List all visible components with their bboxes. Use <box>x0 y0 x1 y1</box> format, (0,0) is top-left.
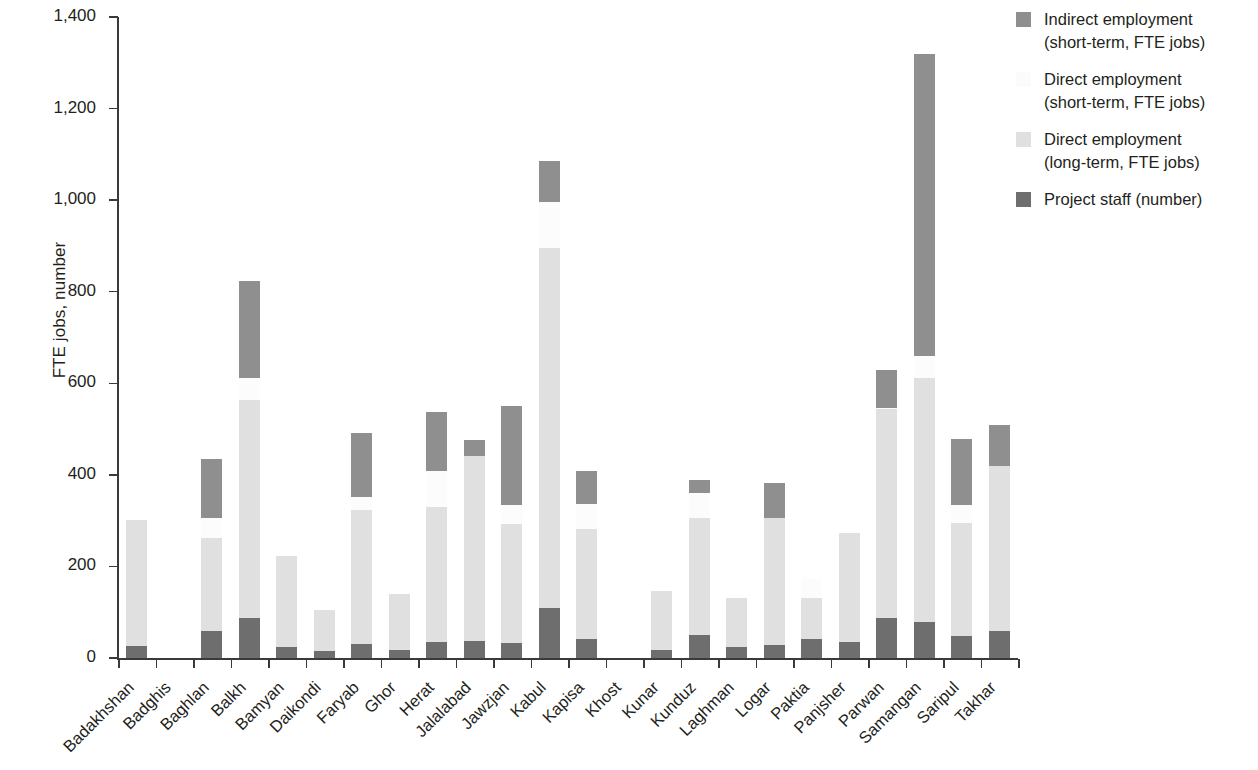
bar-segment[interactable] <box>464 440 485 456</box>
bar-segment[interactable] <box>951 636 972 658</box>
y-axis-tick-label: 1,000 <box>0 189 96 209</box>
bar-segment[interactable] <box>951 439 972 505</box>
bar-segment[interactable] <box>239 378 260 400</box>
legend-item[interactable]: Indirect employment(short-term, FTE jobs… <box>1016 8 1258 54</box>
bar-segment[interactable] <box>539 608 560 658</box>
bar-segment[interactable] <box>539 248 560 607</box>
x-axis-tick <box>906 659 908 668</box>
bar-segment[interactable] <box>126 520 147 646</box>
bar-segment[interactable] <box>464 456 485 641</box>
x-axis-tick <box>156 659 158 668</box>
bar-segment[interactable] <box>726 598 747 647</box>
bar-segment[interactable] <box>126 646 147 658</box>
bar-segment[interactable] <box>426 507 447 642</box>
legend-swatch-icon <box>1016 12 1031 27</box>
x-axis-tick <box>868 659 870 668</box>
x-axis-tick <box>643 659 645 668</box>
bar-segment[interactable] <box>276 556 297 647</box>
bar-segment[interactable] <box>764 483 785 518</box>
bar-segment[interactable] <box>689 480 710 493</box>
bar-segment[interactable] <box>539 202 560 248</box>
x-axis-tick <box>756 659 758 668</box>
bar-segment[interactable] <box>389 594 410 650</box>
bar-segment[interactable] <box>839 533 860 642</box>
legend-item[interactable]: Direct employment(short-term, FTE jobs) <box>1016 68 1258 114</box>
bar-segment[interactable] <box>914 622 935 658</box>
bar-segment[interactable] <box>351 433 372 497</box>
y-axis-tick <box>109 291 118 293</box>
chart-canvas: FTE jobs, number 02004006008001,0001,200… <box>0 0 1258 770</box>
bar-segment[interactable] <box>201 459 222 519</box>
bar-segment[interactable] <box>201 631 222 658</box>
bar-segment[interactable] <box>314 610 335 651</box>
bar-segment[interactable] <box>914 378 935 622</box>
x-axis-tick <box>381 659 383 668</box>
bar-segment[interactable] <box>501 406 522 504</box>
y-axis-tick <box>109 383 118 385</box>
y-axis-tick-label: 1,400 <box>0 6 96 26</box>
bar-segment[interactable] <box>689 493 710 518</box>
bar-segment[interactable] <box>201 518 222 537</box>
bar-segment[interactable] <box>651 650 672 658</box>
bar-segment[interactable] <box>651 591 672 651</box>
x-axis-tick <box>306 659 308 668</box>
bar-segment[interactable] <box>464 641 485 658</box>
bar-segment[interactable] <box>576 529 597 639</box>
bar-segment[interactable] <box>914 356 935 378</box>
bar-segment[interactable] <box>951 505 972 523</box>
bar-segment[interactable] <box>239 281 260 378</box>
bar-segment[interactable] <box>839 642 860 658</box>
bar-segment[interactable] <box>801 598 822 639</box>
bar-segment[interactable] <box>989 466 1010 632</box>
bar-segment[interactable] <box>876 408 897 409</box>
bar-segment[interactable] <box>314 651 335 658</box>
bar-segment[interactable] <box>876 618 897 658</box>
bar-segment[interactable] <box>764 518 785 645</box>
bar-segment[interactable] <box>764 645 785 658</box>
bar-segment[interactable] <box>914 54 935 356</box>
bar-segment[interactable] <box>426 642 447 658</box>
legend-label-line2: (short-term, FTE jobs) <box>1044 91 1258 114</box>
bar-segment[interactable] <box>876 409 897 617</box>
bar-segment[interactable] <box>501 643 522 658</box>
legend-label-line1: Indirect employment <box>1044 8 1258 31</box>
legend-item-label: Direct employment(long-term, FTE jobs) <box>1044 128 1258 174</box>
bar-segment[interactable] <box>689 518 710 635</box>
bar-segment[interactable] <box>426 471 447 507</box>
legend-label-line2: (long-term, FTE jobs) <box>1044 151 1258 174</box>
bar-segment[interactable] <box>501 505 522 524</box>
bar-segment[interactable] <box>239 618 260 658</box>
bar-segment[interactable] <box>801 579 822 597</box>
x-axis-tick <box>943 659 945 668</box>
bar-segment[interactable] <box>689 635 710 658</box>
x-axis-tick <box>456 659 458 668</box>
bar-segment[interactable] <box>426 412 447 472</box>
bar-segment[interactable] <box>276 647 297 658</box>
bar-segment[interactable] <box>576 639 597 658</box>
bar-segment[interactable] <box>576 471 597 504</box>
bar-segment[interactable] <box>989 631 1010 658</box>
bar-segment[interactable] <box>539 161 560 202</box>
plot-area <box>118 17 1018 658</box>
legend-item[interactable]: Project staff (number) <box>1016 188 1258 212</box>
y-axis-tick-label: 1,200 <box>0 98 96 118</box>
y-axis-tick-label: 400 <box>0 464 96 484</box>
bar-segment[interactable] <box>201 538 222 631</box>
bar-segment[interactable] <box>989 425 1010 465</box>
legend-item[interactable]: Direct employment(long-term, FTE jobs) <box>1016 128 1258 174</box>
x-axis-tick <box>568 659 570 668</box>
bar-segment[interactable] <box>801 639 822 658</box>
x-axis-tick <box>118 659 120 668</box>
bar-segment[interactable] <box>501 524 522 643</box>
bar-segment[interactable] <box>876 370 897 409</box>
bar-segment[interactable] <box>351 510 372 644</box>
bar-segment[interactable] <box>351 644 372 658</box>
bar-segment[interactable] <box>576 504 597 529</box>
bar-segment[interactable] <box>726 647 747 658</box>
bar-segment[interactable] <box>951 523 972 636</box>
bar-segment[interactable] <box>351 497 372 510</box>
x-axis-tick <box>681 659 683 668</box>
bar-segment[interactable] <box>389 650 410 658</box>
bar-segment[interactable] <box>239 400 260 617</box>
x-axis-tick <box>981 659 983 668</box>
